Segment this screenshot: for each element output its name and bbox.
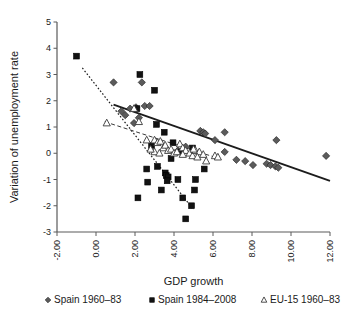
point-marker-diamond — [249, 161, 256, 168]
legend-item-triangle[interactable]: EU-15 1960–83 — [261, 294, 340, 305]
trendline — [82, 68, 193, 210]
y-tick-label: -2 — [43, 201, 51, 211]
legend-label: EU-15 1960–83 — [270, 294, 340, 305]
point-marker-square — [155, 163, 161, 169]
y-tick-label: 3 — [46, 70, 51, 80]
point-marker-square — [175, 177, 181, 183]
legend-item-diamond[interactable]: Spain 1960–83 — [45, 294, 122, 305]
y-axis: 543210-1-2-3 — [43, 17, 57, 237]
x-tick-label: -2.00 — [52, 240, 62, 261]
y-tick-label: -1 — [43, 175, 51, 185]
point-marker-square — [154, 121, 160, 127]
point-marker-square — [183, 216, 189, 222]
point-marker-square — [180, 195, 186, 201]
series-square — [74, 53, 208, 222]
x-tick-label: 6.00 — [208, 240, 218, 258]
point-marker-square — [201, 166, 207, 172]
point-marker-square — [193, 177, 199, 183]
point-marker-diamond — [273, 137, 280, 144]
y-axis-title: Variation of unemployment rate — [8, 51, 20, 203]
y-tick-label: 0 — [46, 148, 51, 158]
legend-label: Spain 1984–2008 — [158, 294, 237, 305]
point-marker-diamond — [233, 156, 240, 163]
point-marker-square — [158, 187, 164, 193]
point-marker-diamond — [221, 129, 228, 136]
chart-canvas: 543210-1-2-3 -2.000.002.004.006.008.0010… — [0, 0, 350, 312]
point-marker-square — [135, 195, 141, 201]
chart-legend: Spain 1960–83Spain 1984–2008EU-15 1960–8… — [45, 294, 340, 305]
point-marker-diamond — [110, 79, 117, 86]
point-marker-square — [152, 87, 158, 93]
y-tick-label: 4 — [46, 43, 51, 53]
point-marker-square — [164, 178, 170, 184]
point-marker-triangle — [103, 119, 110, 126]
x-tick-label: 10.00 — [286, 240, 296, 263]
point-marker-diamond — [242, 158, 249, 165]
point-marker-square — [145, 179, 151, 185]
point-marker-diamond — [323, 152, 330, 159]
axis-titles: GDP growthVariation of unemployment rate — [8, 51, 223, 287]
x-tick-label: 12.00 — [325, 240, 335, 263]
point-marker-triangle — [203, 157, 210, 164]
point-marker-square — [189, 203, 195, 209]
y-tick-label: -3 — [43, 227, 51, 237]
x-axis-title: GDP growth — [164, 275, 224, 287]
point-marker-diamond — [146, 102, 153, 109]
point-marker-diamond — [211, 137, 218, 144]
point-marker-square — [150, 298, 155, 303]
y-tick-label: 2 — [46, 96, 51, 106]
legend-label: Spain 1960–83 — [54, 294, 122, 305]
x-tick-label: 0.00 — [91, 240, 101, 258]
point-marker-triangle — [143, 136, 150, 143]
point-marker-square — [144, 166, 150, 172]
x-axis: -2.000.002.004.006.008.0010.0012.00 — [52, 232, 335, 263]
point-marker-square — [161, 129, 167, 135]
point-marker-diamond — [138, 79, 145, 86]
point-marker-square — [74, 53, 80, 59]
point-marker-square — [192, 187, 198, 193]
scatter-chart: 543210-1-2-3 -2.000.002.004.006.008.0010… — [0, 0, 350, 312]
x-tick-label: 2.00 — [130, 240, 140, 258]
point-marker-square — [137, 72, 143, 78]
y-tick-label: 5 — [46, 17, 51, 27]
y-tick-label: 1 — [46, 122, 51, 132]
trendlines — [82, 68, 330, 210]
point-marker-triangle — [261, 297, 267, 302]
data-points — [74, 53, 330, 222]
x-tick-label: 8.00 — [247, 240, 257, 258]
point-marker-diamond — [45, 297, 51, 303]
x-tick-label: 4.00 — [169, 240, 179, 258]
legend-item-square[interactable]: Spain 1984–2008 — [150, 294, 237, 305]
point-marker-diamond — [221, 148, 228, 155]
